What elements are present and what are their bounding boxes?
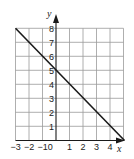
y-tick: 4 <box>49 80 54 90</box>
y-tick: 8 <box>49 24 54 34</box>
x-axis-label: x <box>116 143 122 154</box>
y-tick: 6 <box>49 52 54 62</box>
y-tick-labels: 8 7 6 5 4 3 2 1 <box>49 24 54 132</box>
y-axis-arrow-icon <box>53 14 59 23</box>
x-tick: −3 <box>11 142 21 152</box>
x-tick: −2 <box>24 142 34 152</box>
y-tick: 5 <box>49 66 54 76</box>
coordinate-plane: 8 7 6 5 4 3 2 1 −3 −2 −10 1 2 3 4 y x <box>0 0 134 159</box>
x-tick: 4 <box>108 142 113 152</box>
x-tick: 2 <box>81 142 86 152</box>
x-tick: −10 <box>38 142 53 152</box>
x-tick: 1 <box>67 142 72 152</box>
y-axis-label: y <box>46 8 52 19</box>
y-tick: 1 <box>49 122 54 132</box>
x-tick: 3 <box>94 142 99 152</box>
y-tick: 3 <box>49 94 54 104</box>
y-tick: 2 <box>49 108 54 118</box>
x-tick-labels: −3 −2 −10 1 2 3 4 <box>11 142 113 152</box>
y-tick: 7 <box>49 38 54 48</box>
